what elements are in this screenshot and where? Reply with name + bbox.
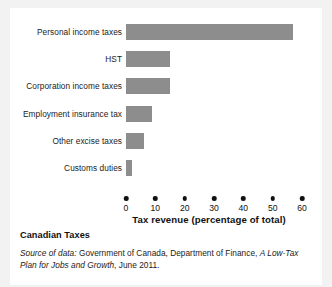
bar-row: HST <box>10 50 322 68</box>
x-axis-tick-label: 0 <box>124 203 129 213</box>
x-axis-tick-dot <box>212 196 217 201</box>
bar-category-label: HST <box>10 50 122 68</box>
bar-row: Customs duties <box>10 159 322 177</box>
bar-row: Personal income taxes <box>10 23 322 41</box>
bar-row: Employment insurance tax <box>10 105 322 123</box>
x-axis-title: Tax revenue (percentage of total) <box>10 214 322 225</box>
x-axis-tick-dot <box>300 196 305 201</box>
x-axis-tick-dot <box>153 196 158 201</box>
figure-card: Personal income taxesHSTCorporation inco… <box>10 8 322 285</box>
x-axis-tick-label: 40 <box>239 203 249 213</box>
bar-row: Other excise taxes <box>10 132 322 150</box>
bar <box>126 133 144 149</box>
bar-category-label: Employment insurance tax <box>10 105 122 123</box>
bar-chart: Personal income taxesHSTCorporation inco… <box>10 14 322 189</box>
x-axis-tick-label: 60 <box>297 203 307 213</box>
caption-block: Canadian Taxes Source of data: Governmen… <box>20 230 316 271</box>
x-axis-tick-label: 30 <box>209 203 219 213</box>
bar-category-label: Customs duties <box>10 159 122 177</box>
caption-title: Canadian Taxes <box>20 230 316 240</box>
source-body-first: Government of Canada, Department of Fina… <box>77 248 260 258</box>
bar <box>126 51 170 67</box>
x-axis-tick-dot <box>270 196 275 201</box>
bar <box>126 24 293 40</box>
caption-source: Source of data: Government of Canada, De… <box>20 247 316 271</box>
bar-row: Corporation income taxes <box>10 77 322 95</box>
bar-category-label: Personal income taxes <box>10 23 122 41</box>
bar-category-label: Corporation income taxes <box>10 77 122 95</box>
bar <box>126 78 170 94</box>
x-axis-tick-label: 10 <box>151 203 161 213</box>
x-axis-title-text: Tax revenue (percentage of total) <box>132 214 285 225</box>
bar <box>126 160 132 176</box>
x-axis-tick-dot <box>182 196 187 201</box>
x-axis-tick-dot <box>241 196 246 201</box>
x-axis-tick-dot <box>124 196 129 201</box>
bar-category-label: Other excise taxes <box>10 132 122 150</box>
x-axis-tick-label: 20 <box>180 203 190 213</box>
bar <box>126 106 152 122</box>
source-body-second: , June 2011. <box>114 260 159 270</box>
source-lead: Source of data: <box>20 248 77 258</box>
x-axis-tick-label: 50 <box>268 203 278 213</box>
